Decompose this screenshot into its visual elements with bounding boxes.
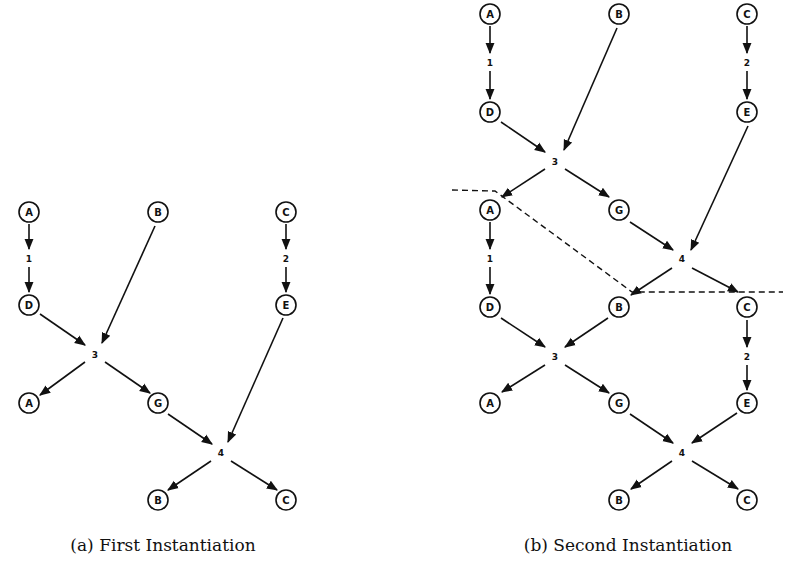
arrow-edge — [565, 365, 609, 393]
operator-4: 4 — [679, 254, 685, 264]
arrow-edge — [168, 414, 212, 444]
svg-text:B: B — [154, 207, 162, 218]
svg-text:E: E — [283, 300, 290, 311]
arrow-edge — [691, 126, 748, 250]
operator-1: 1 — [487, 58, 493, 68]
arrow-edge — [692, 413, 737, 443]
node-c: C — [276, 202, 296, 222]
arrow-edge — [102, 226, 155, 343]
node-b: B — [148, 490, 168, 510]
operator-1: 1 — [26, 254, 32, 264]
panel-second-instantiation: ABCDEAGDBCAGEBC12314324 — [452, 4, 783, 510]
edges — [490, 26, 748, 489]
node-b: B — [609, 4, 629, 24]
arrow-edge — [40, 314, 85, 345]
node-b: B — [609, 297, 629, 317]
operator-2: 2 — [744, 58, 750, 68]
operator-4: 4 — [218, 448, 224, 458]
svg-text:D: D — [486, 107, 494, 118]
arrow-edge — [631, 461, 672, 489]
operator-2: 2 — [744, 352, 750, 362]
operator-2: 2 — [283, 254, 289, 264]
node-e: E — [276, 295, 296, 315]
node-a: A — [480, 200, 500, 220]
svg-text:E: E — [744, 398, 751, 409]
node-g: G — [609, 200, 629, 220]
node-a: A — [19, 202, 39, 222]
edges — [29, 224, 286, 490]
svg-text:2: 2 — [744, 352, 750, 362]
svg-text:G: G — [154, 398, 162, 409]
arrow-edge — [40, 362, 85, 395]
arrow-edge — [501, 122, 545, 152]
svg-text:C: C — [743, 302, 750, 313]
svg-text:B: B — [154, 495, 162, 506]
svg-text:A: A — [486, 205, 494, 216]
node-g: G — [148, 393, 168, 413]
arrow-edge — [692, 268, 738, 292]
operator-4: 4 — [679, 448, 685, 458]
arrow-edge — [564, 28, 617, 150]
svg-text:A: A — [25, 207, 33, 218]
operator-3: 3 — [552, 157, 558, 167]
arrow-edge — [630, 222, 673, 250]
svg-text:1: 1 — [487, 254, 493, 264]
operator-3: 3 — [92, 350, 98, 360]
arrow-edge — [630, 414, 673, 443]
arrow-edge — [631, 268, 672, 295]
arrow-edge — [502, 365, 545, 392]
svg-text:3: 3 — [552, 352, 558, 362]
svg-text:3: 3 — [552, 157, 558, 167]
node-a: A — [480, 393, 500, 413]
arrow-edge — [565, 169, 609, 197]
arrow-edge — [501, 318, 545, 347]
svg-text:2: 2 — [283, 254, 289, 264]
operator-1: 1 — [487, 254, 493, 264]
svg-text:C: C — [743, 9, 750, 20]
svg-text:D: D — [486, 302, 494, 313]
node-c: C — [737, 297, 757, 317]
svg-text:C: C — [743, 495, 750, 506]
svg-text:3: 3 — [92, 350, 98, 360]
arrow-edge — [565, 318, 608, 347]
svg-text:4: 4 — [679, 448, 685, 458]
svg-text:A: A — [486, 398, 494, 409]
svg-text:B: B — [615, 9, 623, 20]
svg-text:2: 2 — [744, 58, 750, 68]
svg-text:1: 1 — [26, 254, 32, 264]
node-e: E — [737, 393, 757, 413]
node-a: A — [19, 393, 39, 413]
svg-text:E: E — [744, 107, 751, 118]
node-b: B — [609, 490, 629, 510]
instantiation-diagram: ABCDEAGBC1234 ABCDEAGDBCAGEBC12314324 — [0, 0, 793, 580]
arrow-edge — [231, 461, 277, 490]
svg-text:A: A — [25, 398, 33, 409]
svg-text:C: C — [282, 207, 289, 218]
svg-text:G: G — [615, 398, 623, 409]
svg-text:D: D — [25, 300, 33, 311]
caption-first-instantiation: (a) First Instantiation — [70, 535, 255, 555]
node-g: G — [609, 393, 629, 413]
svg-text:A: A — [486, 9, 494, 20]
arrow-edge — [168, 461, 211, 490]
node-d: D — [19, 295, 39, 315]
svg-text:C: C — [282, 495, 289, 506]
node-c: C — [737, 490, 757, 510]
arrow-edge — [228, 318, 283, 442]
node-d: D — [480, 297, 500, 317]
svg-text:G: G — [615, 205, 623, 216]
svg-text:1: 1 — [487, 58, 493, 68]
caption-second-instantiation: (b) Second Instantiation — [524, 535, 732, 555]
svg-text:4: 4 — [218, 448, 224, 458]
svg-text:B: B — [615, 302, 623, 313]
arrow-edge — [105, 362, 150, 393]
node-c: C — [276, 490, 296, 510]
node-b: B — [148, 202, 168, 222]
arrow-edge — [692, 461, 738, 489]
node-e: E — [737, 102, 757, 122]
node-c: C — [737, 4, 757, 24]
node-a: A — [480, 4, 500, 24]
svg-text:B: B — [615, 495, 623, 506]
arrow-edge — [502, 169, 545, 197]
panel-first-instantiation: ABCDEAGBC1234 — [19, 202, 296, 510]
